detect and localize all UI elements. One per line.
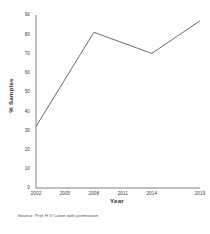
plot-area: 0102030405060708090 20022005200820112014… — [0, 0, 210, 205]
y-tick-label: 80 — [12, 32, 30, 37]
x-tick-label: 2002 — [23, 191, 49, 196]
y-tick-label: 60 — [12, 70, 30, 75]
x-tick-label: 2008 — [81, 191, 107, 196]
y-tick-label: 20 — [12, 147, 30, 152]
y-tick-label: 10 — [12, 166, 30, 171]
line-chart-figure: 0102030405060708090 20022005200820112014… — [0, 0, 210, 234]
data-series-line — [36, 21, 200, 127]
x-axis-title: Year — [36, 197, 198, 204]
x-tick-label: 2011 — [110, 191, 136, 196]
y-tick-label: 0 — [12, 185, 30, 190]
y-tick-label: 40 — [12, 109, 30, 114]
y-tick-label: 50 — [12, 89, 30, 94]
x-tick-label: 2014 — [139, 191, 165, 196]
x-tick-label: 2005 — [52, 191, 78, 196]
y-axis-title: % Samples — [7, 60, 14, 132]
y-tick-label: 90 — [12, 12, 30, 17]
source-caption: Source: Prof H V Caton with permission — [18, 213, 98, 218]
y-tick-label: 70 — [12, 51, 30, 56]
chart-canvas — [0, 0, 210, 205]
x-tick-label: 2019 — [187, 191, 210, 196]
y-tick-label: 30 — [12, 128, 30, 133]
